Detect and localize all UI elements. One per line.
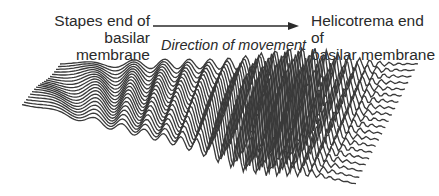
direction-arrow-icon bbox=[153, 22, 299, 30]
traveling-wave-figure bbox=[0, 0, 439, 196]
wave-traces bbox=[22, 48, 418, 183]
